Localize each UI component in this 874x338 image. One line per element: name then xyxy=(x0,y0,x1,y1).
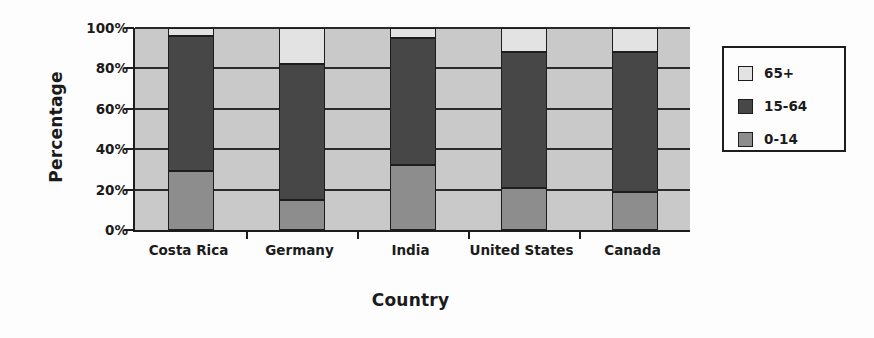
stacked-bar-chart: Percentage 0%20%40%60%80%100% Costa Rica… xyxy=(0,0,874,338)
legend-label: 0-14 xyxy=(764,131,798,147)
legend-swatch-icon xyxy=(738,66,753,81)
x-tick-mark xyxy=(357,230,359,239)
legend-entry[interactable]: 65+ xyxy=(738,59,844,87)
bar-segment-0-14[interactable] xyxy=(168,171,214,230)
y-tick-label-100: 100% xyxy=(62,20,128,36)
bar-stack[interactable] xyxy=(612,28,658,230)
y-tick-label-80: 80% xyxy=(62,60,128,76)
legend-swatch-icon xyxy=(738,99,753,114)
bar-segment-15-64[interactable] xyxy=(501,52,547,187)
bar-segment-0-14[interactable] xyxy=(612,192,658,230)
bar-segment-15-64[interactable] xyxy=(390,38,436,165)
plot-area xyxy=(133,28,690,232)
bar-segment-65-plus[interactable] xyxy=(168,28,214,36)
x-axis-title: Country xyxy=(133,290,688,310)
bar-segment-0-14[interactable] xyxy=(279,200,325,230)
bar-segment-15-64[interactable] xyxy=(279,64,325,199)
bar-stack[interactable] xyxy=(279,28,325,230)
legend-entry[interactable]: 15-64 xyxy=(738,92,844,120)
bar-segment-65-plus[interactable] xyxy=(390,28,436,38)
y-tick-label-60: 60% xyxy=(62,101,128,117)
bar-stack[interactable] xyxy=(501,28,547,230)
legend-swatch-icon xyxy=(738,132,753,147)
bar-segment-15-64[interactable] xyxy=(612,52,658,191)
bar-stack[interactable] xyxy=(390,28,436,230)
legend-entry[interactable]: 0-14 xyxy=(738,125,844,153)
x-tick-mark xyxy=(246,230,248,239)
bar-segment-0-14[interactable] xyxy=(390,165,436,230)
bar-segment-65-plus[interactable] xyxy=(612,28,658,52)
bar-segment-15-64[interactable] xyxy=(168,36,214,171)
bar-segment-65-plus[interactable] xyxy=(501,28,547,52)
bar-group xyxy=(468,28,579,230)
bar-group xyxy=(579,28,690,230)
bar-segment-65-plus[interactable] xyxy=(279,28,325,64)
bar-group xyxy=(135,28,246,230)
legend: 65+15-640-14 xyxy=(722,46,846,152)
bar-segment-0-14[interactable] xyxy=(501,188,547,230)
legend-label: 15-64 xyxy=(764,98,807,114)
x-category-label: Canada xyxy=(568,243,698,259)
bar-group xyxy=(246,28,357,230)
y-tick-label-40: 40% xyxy=(62,141,128,157)
x-tick-mark xyxy=(468,230,470,239)
bar-group xyxy=(357,28,468,230)
bar-stack[interactable] xyxy=(168,28,214,230)
x-tick-mark xyxy=(579,230,581,239)
y-tick-label-20: 20% xyxy=(62,182,128,198)
legend-label: 65+ xyxy=(764,65,794,81)
y-tick-label-0: 0% xyxy=(62,222,128,238)
